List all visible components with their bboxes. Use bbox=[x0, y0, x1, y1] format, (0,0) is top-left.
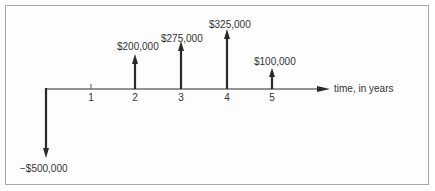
up-arrow-icon bbox=[224, 29, 230, 39]
cash-flow-label-year-5: $100,000 bbox=[254, 56, 296, 67]
tick-label-2: 2 bbox=[132, 92, 138, 103]
tick-label-1: 1 bbox=[88, 92, 94, 103]
tick-label-4: 4 bbox=[224, 92, 230, 103]
up-arrow-icon bbox=[132, 54, 138, 64]
down-arrow-icon bbox=[43, 148, 49, 158]
cash-flow-label-year-4: $325,000 bbox=[209, 19, 251, 30]
cash-flow-label-year-2: $200,000 bbox=[117, 41, 159, 52]
up-arrow-icon bbox=[269, 68, 275, 77]
axis-label: time, in years bbox=[334, 83, 393, 94]
tick-label-5: 5 bbox=[269, 92, 275, 103]
cash-flow-diagram: time, in years 1 2 3 4 5 −$500,000 $200,… bbox=[0, 0, 435, 191]
cash-flow-label-year-3: $275,000 bbox=[161, 33, 203, 44]
tick-label-3: 3 bbox=[178, 92, 184, 103]
axis-arrowhead-icon bbox=[317, 86, 330, 92]
cash-flow-label-year-0: −$500,000 bbox=[20, 163, 68, 174]
